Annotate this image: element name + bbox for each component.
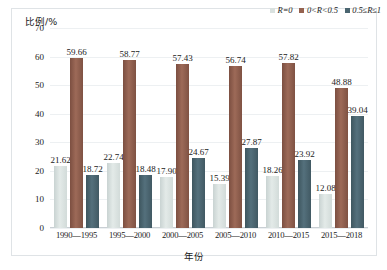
y-tick-label: 30	[35, 137, 44, 147]
bar-group: 12.0848.8839.04	[315, 28, 368, 228]
bar-value-label: 18.72	[82, 164, 102, 174]
x-tick-label: 2015—2018	[315, 230, 368, 240]
chart-figure: R=00<R<0.50.5≤R≤1 比例/% 010203040506070 2…	[0, 0, 387, 270]
legend-swatch-icon	[270, 8, 275, 13]
x-tick-label: 1990—1995	[50, 230, 103, 240]
bar-value-label: 27.87	[241, 137, 261, 147]
bar-value-label: 12.08	[315, 183, 335, 193]
y-tick-label: 0	[40, 223, 45, 233]
bar-value-label: 18.26	[262, 165, 282, 175]
bar-value-label: 48.88	[331, 77, 351, 87]
y-tick-label: 70	[35, 23, 44, 33]
bar[interactable]: 17.90	[160, 177, 173, 228]
bar[interactable]: 24.67	[192, 158, 205, 228]
bar[interactable]: 57.82	[282, 63, 295, 228]
bar-slot: 21.62	[54, 28, 67, 228]
bar[interactable]: 18.48	[139, 175, 152, 228]
bar[interactable]: 18.26	[266, 176, 279, 228]
bar[interactable]: 39.04	[351, 116, 364, 228]
x-tick-label: 2000—2005	[156, 230, 209, 240]
bar-slot: 56.74	[229, 28, 242, 228]
bar-slot: 23.92	[298, 28, 311, 228]
bar-slot: 18.72	[86, 28, 99, 228]
bar-group: 21.6259.6618.72	[50, 28, 103, 228]
bar-value-label: 21.62	[50, 155, 70, 165]
bar-slot: 57.43	[176, 28, 189, 228]
legend-swatch-icon	[299, 8, 304, 13]
bar-value-label: 59.66	[66, 47, 86, 57]
chart-legend: R=00<R<0.50.5≤R≤1	[270, 6, 381, 15]
bar-value-label: 18.48	[135, 164, 155, 174]
bar-value-label: 24.67	[188, 147, 208, 157]
bar-slot: 39.04	[351, 28, 364, 228]
bar[interactable]: 58.77	[123, 60, 136, 228]
x-axis-ticks: 1990—19951995—20002000—20052005—20102010…	[50, 230, 368, 240]
bar-value-label: 56.74	[225, 55, 245, 65]
bar-value-label: 57.43	[172, 53, 192, 63]
bar-value-label: 17.90	[156, 166, 176, 176]
legend-item-2[interactable]: 0.5≤R≤1	[345, 6, 381, 15]
bar-value-label: 23.92	[294, 149, 314, 159]
bar-groups: 21.6259.6618.7222.7458.7718.4817.9057.43…	[50, 28, 368, 228]
legend-swatch-icon	[345, 8, 350, 13]
gridline	[50, 228, 368, 229]
bar-slot: 18.26	[266, 28, 279, 228]
legend-label: 0.5≤R≤1	[352, 6, 381, 15]
bar[interactable]: 15.39	[213, 184, 226, 228]
bar[interactable]: 22.74	[107, 163, 120, 228]
y-tick-label: 60	[35, 52, 44, 62]
bar-value-label: 39.04	[347, 105, 367, 115]
bar[interactable]: 23.92	[298, 160, 311, 228]
x-tick-label: 2005—2010	[209, 230, 262, 240]
bar[interactable]: 18.72	[86, 175, 99, 228]
x-axis-title: 年份	[0, 249, 387, 263]
bar[interactable]: 56.74	[229, 66, 242, 228]
bar-value-label: 57.82	[278, 52, 298, 62]
bar-group: 17.9057.4324.67	[156, 28, 209, 228]
y-tick-label: 40	[35, 109, 44, 119]
legend-label: 0<R<0.5	[307, 6, 338, 15]
x-tick-label: 1995—2000	[103, 230, 156, 240]
bar[interactable]: 27.87	[245, 148, 258, 228]
bar-slot: 22.74	[107, 28, 120, 228]
bar[interactable]: 59.66	[70, 58, 83, 228]
bar-slot: 18.48	[139, 28, 152, 228]
legend-label: R=0	[278, 6, 293, 15]
bar-value-label: 22.74	[103, 152, 123, 162]
bar-slot: 24.67	[192, 28, 205, 228]
bar[interactable]: 12.08	[319, 194, 332, 229]
bar-slot: 12.08	[319, 28, 332, 228]
bar-slot: 59.66	[70, 28, 83, 228]
bar-slot: 48.88	[335, 28, 348, 228]
y-tick-label: 50	[35, 80, 44, 90]
bar-slot: 15.39	[213, 28, 226, 228]
legend-item-0[interactable]: R=0	[270, 6, 292, 15]
bar-slot: 27.87	[245, 28, 258, 228]
bar[interactable]: 57.43	[176, 64, 189, 228]
bar-slot: 58.77	[123, 28, 136, 228]
bar[interactable]: 21.62	[54, 166, 67, 228]
bar-value-label: 15.39	[209, 173, 229, 183]
bar-group: 15.3956.7427.87	[209, 28, 262, 228]
bar-slot: 17.90	[160, 28, 173, 228]
bar-value-label: 58.77	[119, 49, 139, 59]
bar[interactable]: 48.88	[335, 88, 348, 228]
y-tick-label: 10	[35, 194, 44, 204]
plot-area: 010203040506070 21.6259.6618.7222.7458.7…	[50, 28, 368, 228]
bar-group: 22.7458.7718.48	[103, 28, 156, 228]
bar-group: 18.2657.8223.92	[262, 28, 315, 228]
x-tick-label: 2010—2015	[262, 230, 315, 240]
bar-slot: 57.82	[282, 28, 295, 228]
legend-item-1[interactable]: 0<R<0.5	[299, 6, 337, 15]
y-tick-label: 20	[35, 166, 44, 176]
